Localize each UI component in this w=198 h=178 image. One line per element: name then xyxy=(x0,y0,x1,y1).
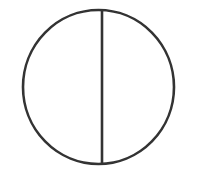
circle-outline xyxy=(23,10,174,164)
figure-svg xyxy=(0,0,198,178)
figure-canvas xyxy=(0,0,198,178)
